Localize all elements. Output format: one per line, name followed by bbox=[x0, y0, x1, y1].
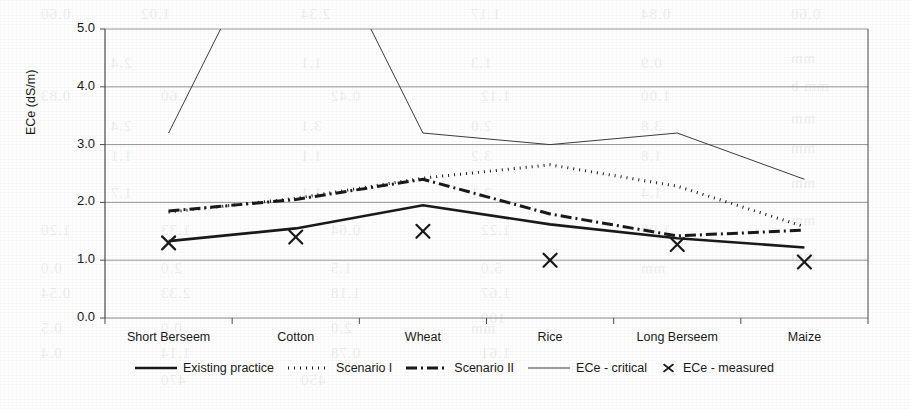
y-axis-title: ECe (dS/m) bbox=[24, 15, 38, 135]
legend-item-scenario-ii: Scenario II bbox=[406, 362, 514, 375]
y-tick-label: 4.0 bbox=[51, 78, 95, 93]
y-tick-label: 1.0 bbox=[51, 251, 95, 266]
x-tick-label-rice: Rice bbox=[487, 330, 614, 344]
legend-item-ece-measured: ECe - measured bbox=[661, 362, 774, 375]
legend-item-existing-practice: Existing practice bbox=[135, 362, 274, 375]
x-tick-label-maize: Maize bbox=[741, 330, 868, 344]
x-tick-label-wheat: Wheat bbox=[359, 330, 486, 344]
legend-swatch-solid-thick bbox=[135, 362, 177, 374]
legend-swatch-dash-dot-thick bbox=[406, 362, 448, 374]
chart-legend: Existing practiceScenario IScenario IIEC… bbox=[0, 362, 909, 375]
y-tick-label: 5.0 bbox=[51, 20, 95, 35]
x-tick-label-long-berseem: Long Berseem bbox=[614, 330, 741, 344]
legend-label: Existing practice bbox=[183, 362, 274, 375]
legend-label: Scenario I bbox=[336, 362, 392, 375]
chart-gridlines bbox=[105, 29, 868, 318]
ece-line-chart bbox=[0, 0, 909, 409]
y-tick-label: 3.0 bbox=[51, 136, 95, 151]
chart-x-tick-marks bbox=[100, 29, 868, 324]
chart-series-layer bbox=[162, 0, 811, 268]
legend-swatch-x-marker bbox=[661, 362, 677, 374]
legend-label: ECe - critical bbox=[576, 362, 647, 375]
x-tick-label-cotton: Cotton bbox=[232, 330, 359, 344]
chart-plot-frame bbox=[105, 29, 868, 318]
legend-item-scenario-i: Scenario I bbox=[288, 362, 392, 375]
y-tick-label: 0.0 bbox=[51, 309, 95, 324]
legend-label: ECe - measured bbox=[683, 362, 774, 375]
legend-item-ece-critical: ECe - critical bbox=[528, 362, 647, 375]
legend-label: Scenario II bbox=[454, 362, 514, 375]
y-tick-label: 2.0 bbox=[51, 193, 95, 208]
legend-swatch-dotted bbox=[288, 362, 330, 374]
x-tick-label-short-berseem: Short Berseem bbox=[105, 330, 232, 344]
legend-swatch-solid-thin bbox=[528, 362, 570, 374]
